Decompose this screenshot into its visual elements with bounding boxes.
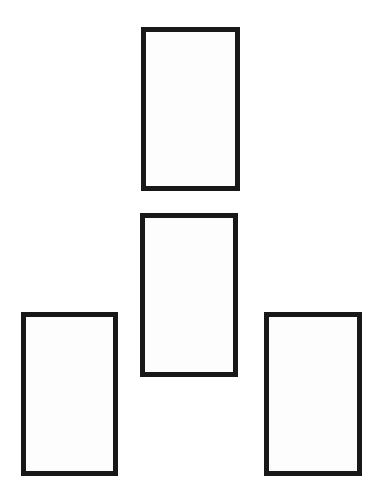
bottom-right-rectangle [264, 312, 362, 476]
bottom-left-rectangle [21, 312, 118, 476]
top-center-rectangle [141, 27, 240, 191]
middle-center-rectangle [140, 213, 238, 377]
diagram-canvas [0, 0, 381, 493]
